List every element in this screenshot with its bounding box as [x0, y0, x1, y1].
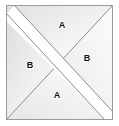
region-label-right: B	[84, 53, 91, 63]
region-label-bottom: A	[54, 90, 61, 100]
region-label-left: B	[27, 60, 34, 70]
square-diagonals-diagram: A B A B	[0, 0, 119, 126]
figure-container: A B A B	[0, 0, 119, 126]
region-label-top: A	[59, 20, 66, 30]
